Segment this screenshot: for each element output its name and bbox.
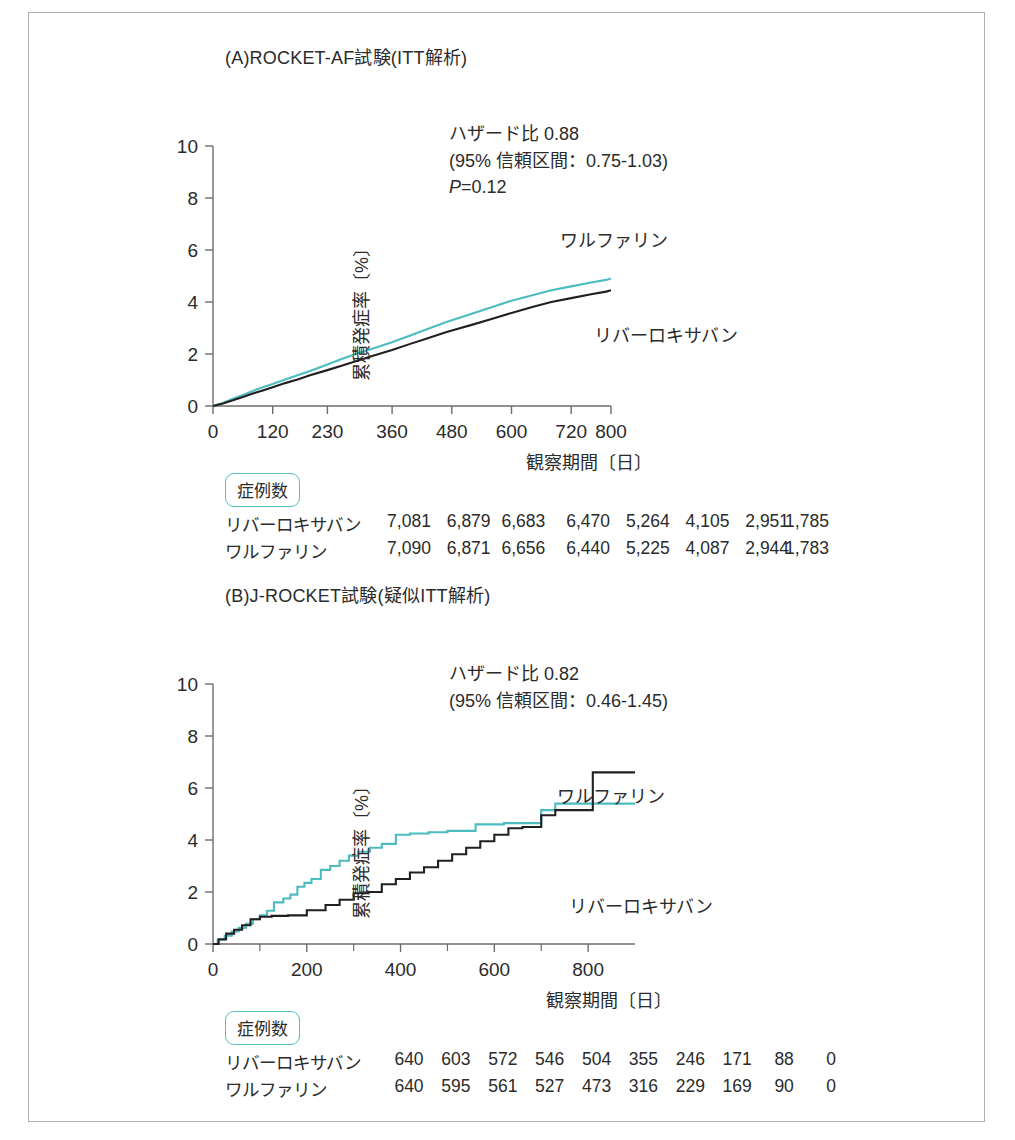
panel-a-x-axis-label: 観察期間〔日〕 — [526, 448, 652, 474]
risk-row-value: 6,440 — [566, 538, 610, 559]
panel-b-series-label-warfarin: ワルファリン — [557, 782, 665, 808]
svg-text:800: 800 — [595, 421, 627, 442]
svg-text:600: 600 — [478, 959, 510, 980]
svg-text:8: 8 — [187, 726, 198, 747]
risk-row-value: 246 — [676, 1049, 705, 1070]
panel-a-risk-rows: リバーロキサバン7,0816,8796,6836,4705,2644,1052,… — [225, 511, 1015, 565]
risk-row-value: 5,264 — [626, 511, 670, 532]
panel-a-y-axis-label: 累積発症率〔%〕 — [347, 239, 373, 381]
risk-row-value: 4,105 — [686, 511, 730, 532]
panel-a-title: (A)ROCKET-AF試験(ITT解析) — [225, 43, 467, 69]
risk-row-value: 0 — [826, 1076, 836, 1097]
risk-row-value: 90 — [774, 1076, 793, 1097]
risk-row-value: 0 — [826, 1049, 836, 1070]
svg-text:2: 2 — [187, 882, 198, 903]
svg-text:360: 360 — [376, 421, 408, 442]
svg-text:480: 480 — [436, 421, 468, 442]
panel-b-title: (B)J-ROCKET試験(疑似ITT解析) — [225, 581, 490, 607]
panel-a-series-label-warfarin: ワルファリン — [560, 226, 668, 252]
svg-text:0: 0 — [208, 959, 219, 980]
svg-text:4: 4 — [187, 292, 198, 313]
risk-row-value: 561 — [488, 1076, 517, 1097]
svg-text:6: 6 — [187, 778, 198, 799]
risk-row-value: 169 — [723, 1076, 752, 1097]
panel-b-x-axis-label: 観察期間〔日〕 — [546, 986, 672, 1012]
risk-row-label: ワルファリン — [225, 1076, 385, 1101]
risk-row-value: 7,090 — [387, 538, 431, 559]
panel-b-confidence-interval: (95% 信頼区間：0.46-1.45) — [449, 688, 668, 715]
panel-a-risk-badge: 症例数 — [225, 473, 300, 507]
risk-table-row: ワルファリン7,0906,8716,6566,4405,2254,0872,94… — [225, 538, 1015, 565]
risk-row-value: 5,225 — [626, 538, 670, 559]
figure-frame: (A)ROCKET-AF試験(ITT解析) 024681001202303604… — [28, 12, 985, 1122]
svg-text:0: 0 — [187, 396, 198, 417]
risk-row-value: 572 — [488, 1049, 517, 1070]
svg-text:0: 0 — [208, 421, 219, 442]
svg-text:400: 400 — [385, 959, 417, 980]
risk-row-value: 640 — [394, 1076, 423, 1097]
risk-row-value: 7,081 — [387, 511, 431, 532]
risk-row-value: 316 — [629, 1076, 658, 1097]
risk-row-value: 595 — [441, 1076, 470, 1097]
panel-a-p-value: P=0.12 — [449, 174, 668, 201]
risk-row-value: 527 — [535, 1076, 564, 1097]
risk-row-label: ワルファリン — [225, 538, 385, 563]
risk-row-value: 1,785 — [785, 511, 829, 532]
svg-text:230: 230 — [312, 421, 344, 442]
risk-table-row: リバーロキサバン640603572546504355246171880 — [225, 1049, 1015, 1076]
svg-text:10: 10 — [177, 674, 198, 695]
risk-row-value: 355 — [629, 1049, 658, 1070]
svg-text:6: 6 — [187, 240, 198, 261]
risk-row-value: 88 — [774, 1049, 793, 1070]
panel-b-y-axis-label: 累積発症率〔%〕 — [347, 777, 373, 919]
risk-row-value: 473 — [582, 1076, 611, 1097]
panel-b-plot: 02468100200400600800 累積発症率〔%〕 ハザード比 0.82… — [29, 609, 986, 1009]
panel-a-plot: 02468100120230360480600720800 累積発症率〔%〕 ハ… — [29, 71, 986, 471]
risk-row-value: 504 — [582, 1049, 611, 1070]
panel-a-confidence-interval: (95% 信頼区間：0.75-1.03) — [449, 148, 668, 175]
risk-table-row: ワルファリン640595561527473316229169900 — [225, 1076, 1015, 1103]
risk-row-value: 2,944 — [745, 538, 789, 559]
panel-b-risk-badge: 症例数 — [225, 1011, 300, 1045]
svg-text:800: 800 — [572, 959, 604, 980]
svg-text:10: 10 — [177, 136, 198, 157]
risk-row-value: 171 — [723, 1049, 752, 1070]
risk-row-label: リバーロキサバン — [225, 511, 385, 536]
svg-text:720: 720 — [555, 421, 587, 442]
risk-row-value: 229 — [676, 1076, 705, 1097]
risk-row-value: 6,683 — [502, 511, 546, 532]
risk-table-row: リバーロキサバン7,0816,8796,6836,4705,2644,1052,… — [225, 511, 1015, 538]
svg-text:8: 8 — [187, 188, 198, 209]
svg-text:120: 120 — [257, 421, 289, 442]
risk-row-value: 6,879 — [447, 511, 491, 532]
risk-row-value: 1,783 — [785, 538, 829, 559]
panel-b-risk-rows: リバーロキサバン640603572546504355246171880ワルファリ… — [225, 1049, 1015, 1103]
panel-a-statistics: ハザード比 0.88 (95% 信頼区間：0.75-1.03) P=0.12 — [449, 121, 668, 201]
risk-row-value: 603 — [441, 1049, 470, 1070]
risk-row-value: 4,087 — [686, 538, 730, 559]
risk-row-value: 6,871 — [447, 538, 491, 559]
panel-a-series-label-rivaroxaban: リバーロキサバン — [594, 321, 738, 347]
svg-text:200: 200 — [291, 959, 323, 980]
risk-row-value: 6,656 — [502, 538, 546, 559]
risk-row-label: リバーロキサバン — [225, 1049, 385, 1074]
panel-b-statistics: ハザード比 0.82 (95% 信頼区間：0.46-1.45) — [449, 661, 668, 714]
svg-text:0: 0 — [187, 934, 198, 955]
panel-b-hazard-ratio: ハザード比 0.82 — [449, 661, 668, 688]
risk-row-value: 640 — [394, 1049, 423, 1070]
svg-text:2: 2 — [187, 344, 198, 365]
risk-row-value: 2,951 — [745, 511, 789, 532]
svg-text:4: 4 — [187, 830, 198, 851]
panel-a-hazard-ratio: ハザード比 0.88 — [449, 121, 668, 148]
panel-b-series-label-rivaroxaban: リバーロキサバン — [569, 892, 713, 918]
risk-row-value: 546 — [535, 1049, 564, 1070]
risk-row-value: 6,470 — [566, 511, 610, 532]
svg-text:600: 600 — [496, 421, 528, 442]
